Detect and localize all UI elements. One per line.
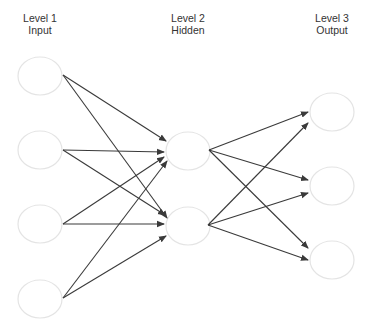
edges-group <box>63 75 308 298</box>
edge-i1-h1 <box>63 75 166 141</box>
node-h2 <box>166 207 210 245</box>
edge-i4-h1 <box>63 161 167 298</box>
edge-i1-h2 <box>63 75 167 218</box>
edge-i2-h1 <box>63 150 164 152</box>
edge-h1-o1 <box>209 112 308 150</box>
node-i2 <box>18 131 62 169</box>
edge-i3-h1 <box>63 157 164 224</box>
node-h1 <box>166 132 210 170</box>
nodes-group <box>18 57 354 318</box>
edge-h2-o3 <box>208 225 308 260</box>
node-o1 <box>310 93 354 131</box>
network-diagram <box>0 0 371 333</box>
node-i3 <box>18 205 62 243</box>
edge-i2-h2 <box>63 150 165 215</box>
node-i4 <box>18 280 62 318</box>
node-o3 <box>310 241 354 279</box>
node-o2 <box>310 167 354 205</box>
node-i1 <box>18 57 62 95</box>
edge-h2-o1 <box>208 123 308 225</box>
edge-i4-h2 <box>63 236 166 298</box>
